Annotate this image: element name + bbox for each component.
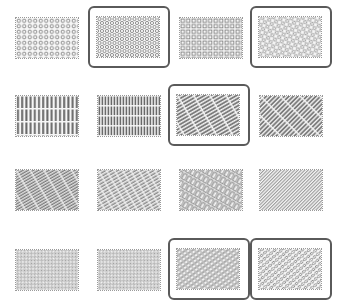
pattern-tile-r1c2[interactable]: circles-staggered — [88, 6, 170, 68]
micro-dots-pattern-icon — [98, 250, 160, 290]
diagonal-dashes-pattern-icon — [16, 170, 78, 210]
vertical-slots-pattern-icon — [16, 96, 78, 136]
pattern-grid: circles-gridcircles-staggeredsquares-gri… — [0, 0, 342, 308]
diagonal-ovals-irregular-pattern-icon — [259, 249, 321, 289]
pattern-tile-r2c3[interactable]: diagonal-slots — [168, 84, 250, 146]
diagonal-dashes-fine-pattern-icon — [98, 170, 160, 210]
circles-staggered-pattern-icon — [97, 17, 159, 57]
pattern-tile-r4c2[interactable]: micro-dots — [88, 240, 170, 302]
pattern-tile-r3c1[interactable]: diagonal-dashes — [6, 160, 88, 222]
pattern-tile-r4c3[interactable]: diagonal-ovals — [168, 238, 250, 300]
pattern-tile-r3c3[interactable]: diagonal-rects — [170, 160, 252, 222]
pattern-tile-r1c4[interactable]: circles-diagonal — [250, 6, 332, 68]
squares-grid-pattern-icon — [180, 18, 242, 58]
pattern-tile-r2c4[interactable]: diagonal-slots-steep — [250, 86, 332, 148]
pattern-tile-r2c1[interactable]: vertical-slots — [6, 86, 88, 148]
pattern-tile-r4c1[interactable]: micro-dots — [6, 240, 88, 302]
diagonal-slots-steep-pattern-icon — [260, 96, 322, 136]
pattern-tile-r2c2[interactable]: vertical-slots-dense — [88, 86, 170, 148]
diagonal-ovals-pattern-icon — [177, 249, 239, 289]
diagonal-fine-pattern-icon — [260, 170, 322, 210]
diagonal-slots-pattern-icon — [177, 95, 239, 135]
circles-grid-pattern-icon — [16, 18, 78, 58]
pattern-tile-r1c1[interactable]: circles-grid — [6, 8, 88, 70]
pattern-tile-r3c2[interactable]: diagonal-dashes-fine — [88, 160, 170, 222]
micro-dots-pattern-icon — [16, 250, 78, 290]
circles-diagonal-pattern-icon — [259, 17, 321, 57]
pattern-tile-r1c3[interactable]: squares-grid — [170, 8, 252, 70]
diagonal-rects-pattern-icon — [180, 170, 242, 210]
pattern-tile-r4c4[interactable]: diagonal-ovals-irregular — [250, 238, 332, 300]
pattern-tile-r3c4[interactable]: diagonal-fine — [250, 160, 332, 222]
vertical-slots-dense-pattern-icon — [98, 96, 160, 136]
